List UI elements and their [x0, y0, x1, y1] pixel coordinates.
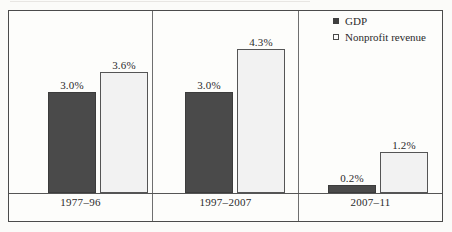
- legend-item-nonprofit-revenue[interactable]: Nonprofit revenue: [333, 30, 426, 44]
- bar-value-label: 3.6%: [100, 59, 148, 71]
- bar-chart-figure: 3.0% 3.6% 3.0% 4.3% 0.2%: [0, 0, 452, 232]
- bar-value-label: 3.0%: [185, 79, 233, 91]
- bar-rect: [237, 49, 285, 193]
- bar-group-1977-96: 3.0% 3.6%: [28, 10, 160, 193]
- category-label-1997-2007: 1997–2007: [153, 196, 298, 208]
- bar-value-label: 3.0%: [48, 79, 96, 91]
- bar-rect: [48, 92, 96, 193]
- bar-rect: [380, 152, 428, 193]
- bar-gdp-2007-11[interactable]: 0.2%: [328, 185, 376, 193]
- open-square-icon: [333, 34, 339, 40]
- bar-group-1997-2007: 3.0% 4.3%: [160, 10, 306, 193]
- bar-value-label: 4.3%: [237, 36, 285, 48]
- legend: GDP Nonprofit revenue: [333, 14, 426, 46]
- bar-gdp-1997-2007[interactable]: 3.0%: [185, 92, 233, 193]
- legend-label: Nonprofit revenue: [345, 31, 426, 43]
- category-label-2007-11: 2007–11: [299, 196, 442, 208]
- filled-square-icon: [333, 18, 339, 24]
- legend-label: GDP: [345, 15, 367, 27]
- bar-gdp-1977-96[interactable]: 3.0%: [48, 92, 96, 193]
- category-label-1977-96: 1977–96: [9, 196, 152, 208]
- legend-item-gdp[interactable]: GDP: [333, 14, 426, 28]
- bar-value-label: 0.2%: [328, 172, 376, 184]
- bar-rect: [100, 72, 148, 193]
- scan-artifact-line: [10, 1, 310, 2]
- bar-rect: [328, 185, 376, 193]
- bar-nonprofit-2007-11[interactable]: 1.2%: [380, 152, 428, 193]
- bar-value-label: 1.2%: [380, 139, 428, 151]
- bar-rect: [185, 92, 233, 193]
- bar-nonprofit-1997-2007[interactable]: 4.3%: [237, 49, 285, 193]
- x-axis-baseline: [9, 193, 442, 194]
- bar-nonprofit-1977-96[interactable]: 3.6%: [100, 72, 148, 193]
